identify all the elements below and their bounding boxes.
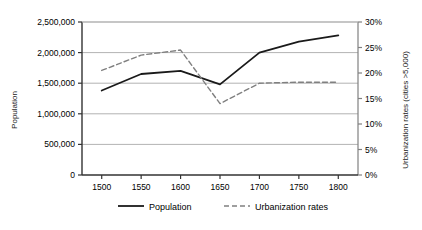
population-urbanization-line-chart: 0500,0001,000,0001,500,0002,000,0002,500… — [0, 0, 422, 230]
y2-tick-label: 0% — [365, 170, 378, 180]
y2-tick-label: 30% — [365, 17, 382, 27]
y2-tick-label: 15% — [365, 94, 382, 104]
x-tick-label: 1650 — [211, 182, 230, 192]
x-tick-label: 1800 — [329, 182, 348, 192]
x-tick-label: 1750 — [289, 182, 308, 192]
y-tick-label: 1,500,000 — [37, 78, 75, 88]
y2-tick-label: 10% — [365, 119, 382, 129]
y-tick-label: 2,000,000 — [37, 48, 75, 58]
chart-container: 0500,0001,000,0001,500,0002,000,0002,500… — [0, 0, 422, 230]
y-axis-right-label: Urbanization rates (cities >5,000) — [401, 51, 410, 169]
x-tick-label: 1500 — [92, 182, 111, 192]
y2-tick-label: 20% — [365, 68, 382, 78]
y2-tick-label: 5% — [365, 145, 378, 155]
y2-tick-label: 25% — [365, 43, 382, 53]
y-tick-label: 2,500,000 — [37, 17, 75, 27]
y-axis-left-label: Population — [10, 91, 19, 129]
x-tick-label: 1700 — [250, 182, 269, 192]
y-tick-label: 1,000,000 — [37, 109, 75, 119]
legend-label-1: Urbanization rates — [255, 202, 329, 212]
y-tick-label: 500,000 — [44, 139, 75, 149]
y-tick-label: 0 — [70, 170, 75, 180]
legend-label-0: Population — [149, 202, 192, 212]
x-tick-label: 1600 — [171, 182, 190, 192]
x-tick-label: 1550 — [132, 182, 151, 192]
